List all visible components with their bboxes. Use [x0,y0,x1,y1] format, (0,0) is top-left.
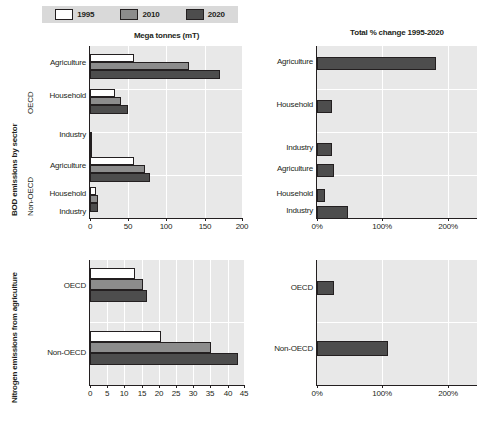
legend-item-1995: 1995 [55,9,94,20]
tickmark [242,218,243,221]
bar-non-oecd-industry-change [317,206,348,219]
cat-label-oecd-agriculture: Agriculture [20,58,86,67]
tickmark [448,218,449,221]
cat-label-tr-non-oecd-household: Household [247,189,313,198]
xtick-label: 0 [82,389,98,398]
bar-br-oecd-change [317,281,334,295]
bar-oecd-household-2010 [90,97,121,105]
plot-area-top-left [90,46,243,218]
xtick-label: 30 [185,389,201,398]
cat-label-br-oecd: OECD [247,283,313,292]
bar-oecd-industry-1995 [90,132,92,140]
panel-title-top-left: Mega tonnes (mT) [90,31,243,40]
xtick-label: 10 [116,389,132,398]
axis-title-bod: BOD emissions by sector [10,124,19,216]
bar-bl-non-oecd-1995 [90,331,161,342]
cat-label-tr-oecd-industry: Industry [247,143,313,152]
tickmark [448,385,449,388]
legend-label-2020: 2020 [208,10,225,19]
chart-legend: 1995 2010 2020 [42,6,238,23]
cat-label-non-oecd-agriculture: Agriculture [20,161,86,170]
cat-label-bl-non-oecd: Non-OECD [20,348,86,357]
bar-oecd-industry-2010 [90,140,92,148]
xtick-label: 0% [305,222,329,231]
xtick-label: 200 [232,222,252,231]
bar-non-oecd-household-1995 [90,187,96,195]
cat-label-tr-oecd-agriculture: Agriculture [247,57,313,66]
tickmark [90,385,91,388]
tickmark [107,385,108,388]
bar-non-oecd-household-2010 [90,195,98,203]
legend-item-2010: 2010 [120,9,159,20]
xtick-label: 0% [305,389,329,398]
bar-oecd-household-1995 [90,89,115,97]
xtick-label: 200% [434,222,462,231]
bar-non-oecd-agriculture-1995 [90,157,134,165]
cat-label-tr-oecd-household: Household [247,100,313,109]
cat-label-non-oecd-industry: Industry [20,207,86,216]
gridline-horizontal [317,89,477,90]
xtick-label: 25 [168,389,184,398]
xtick-label: 5 [99,389,115,398]
bar-oecd-industry-2020 [90,148,92,157]
bar-oecd-household-2020 [90,105,128,114]
bar-oecd-agriculture-2020 [90,70,220,79]
bar-bl-non-oecd-2020 [90,353,238,365]
tickmark [124,385,125,388]
x-axis-line [316,385,477,386]
gridline-horizontal [90,132,243,133]
bar-bl-oecd-1995 [90,268,135,279]
legend-swatch-icon [186,9,204,20]
cat-label-non-oecd-household: Household [20,189,86,198]
tickmark [382,385,383,388]
xtick-label: 100% [368,222,396,231]
bar-non-oecd-agriculture-2020 [90,173,150,182]
xtick-label: 100% [368,389,396,398]
tickmark [159,385,160,388]
cat-label-oecd-household: Household [20,91,86,100]
bar-non-oecd-household-change [317,189,325,202]
tickmark [166,218,167,221]
bar-bl-oecd-2010 [90,279,143,290]
gridline-horizontal [317,322,477,323]
gridline-horizontal [317,175,477,176]
panel-title-top-right: Total % change 1995-2020 [317,28,477,37]
tickmark [228,385,229,388]
bar-oecd-household-change [317,100,332,113]
tickmark [142,385,143,388]
plot-area-top-right [317,46,477,218]
plot-area-bottom-left [90,260,245,385]
xtick-label: 0 [80,222,100,231]
xtick-label: 40 [220,389,236,398]
bar-non-oecd-agriculture-change [317,164,334,177]
plot-area-bottom-right [317,260,477,385]
figure-root: 1995 2010 2020 Mega tonnes (mT) Total % … [0,0,488,421]
tickmark [210,385,211,388]
bar-non-oecd-agriculture-2010 [90,165,145,173]
legend-label-2010: 2010 [142,10,159,19]
gridline-horizontal [90,322,245,323]
xtick-label: 100 [156,222,176,231]
xtick-label: 200% [434,389,462,398]
xtick-label: 15 [134,389,150,398]
xtick-label: 35 [202,389,218,398]
bar-oecd-agriculture-2010 [90,62,189,70]
bar-oecd-agriculture-change [317,57,436,70]
tickmark [128,218,129,221]
cat-label-oecd-industry: Industry [20,130,86,139]
bar-br-non-oecd-change [317,341,388,356]
xtick-label: 20 [151,389,167,398]
bar-bl-non-oecd-2010 [90,342,211,353]
bar-bl-oecd-2020 [90,290,147,302]
legend-item-2020: 2020 [186,9,225,20]
tickmark [382,218,383,221]
xtick-label: 50 [118,222,138,231]
bar-non-oecd-household-2020 [90,203,98,212]
tickmark [205,218,206,221]
gridline-horizontal [317,132,477,133]
legend-swatch-icon [55,9,73,20]
tickmark [176,385,177,388]
xtick-label: 150 [195,222,215,231]
legend-label-1995: 1995 [77,10,94,19]
tickmark [90,218,91,221]
